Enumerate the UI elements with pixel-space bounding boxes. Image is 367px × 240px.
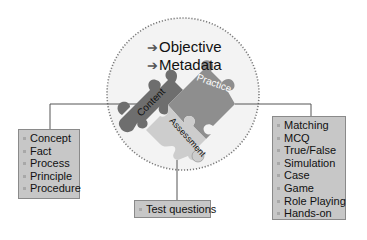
- list-item: Matching: [277, 119, 341, 132]
- list-item: Process: [23, 157, 75, 170]
- list-item: Fact: [23, 145, 75, 158]
- list-item: Simulation: [277, 157, 341, 170]
- list-item: Test questions: [139, 203, 206, 216]
- list-item: Principle: [23, 170, 75, 183]
- list-item: Procedure: [23, 182, 75, 195]
- objective-label: Objective: [159, 38, 222, 55]
- list-item: Concept: [23, 132, 75, 145]
- list-item: True/False: [277, 144, 341, 157]
- arrow-right-icon: ➔: [147, 40, 158, 55]
- list-item: Case: [277, 169, 341, 182]
- objective-row: ➔Objective: [147, 38, 222, 56]
- list-item: Hands-on: [277, 207, 341, 220]
- assessment-types-box: Test questions: [134, 200, 211, 218]
- list-item: MCQ: [277, 132, 341, 145]
- list-item: Game: [277, 182, 341, 195]
- practice-types-box: Matching MCQ True/False Simulation Case …: [272, 116, 346, 220]
- objective-metadata-labels: ➔Objective ➔Metadata: [147, 38, 222, 74]
- arrow-right-icon: ➔: [147, 58, 158, 73]
- metadata-label: Metadata: [159, 56, 222, 73]
- list-item: Role Playing: [277, 195, 341, 208]
- metadata-row: ➔Metadata: [147, 56, 222, 74]
- content-types-box: Concept Fact Process Principle Procedure: [18, 129, 80, 199]
